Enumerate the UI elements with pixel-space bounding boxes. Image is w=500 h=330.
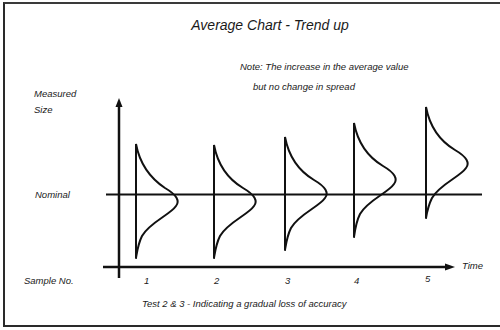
y-axis (116, 98, 123, 278)
distribution-curve-1 (136, 144, 178, 258)
distribution-curve-5 (426, 107, 468, 218)
distribution-curves (136, 107, 468, 258)
time-axis (103, 264, 455, 271)
chart-plot (0, 0, 500, 330)
distribution-curve-2 (214, 145, 256, 258)
distribution-curve-4 (354, 123, 396, 237)
